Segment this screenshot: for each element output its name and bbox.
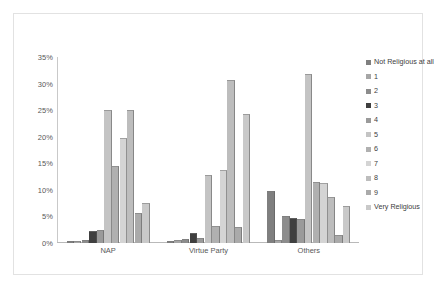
bar	[275, 240, 282, 243]
legend-item[interactable]: 8	[366, 174, 438, 183]
y-axis-tick-label: 15%	[38, 159, 53, 168]
bar	[112, 166, 119, 243]
legend-item[interactable]: 5	[366, 131, 438, 140]
y-axis-tick-label: 20%	[38, 132, 53, 141]
bar	[182, 239, 189, 243]
y-axis-tick-label: 0%	[42, 239, 53, 248]
legend-swatch-icon	[366, 176, 371, 181]
bar	[313, 182, 320, 243]
y-axis-tick-label: 30%	[38, 79, 53, 88]
bar-group	[158, 57, 258, 243]
bar	[104, 110, 111, 243]
bar	[305, 74, 312, 243]
bar-group	[259, 57, 359, 243]
legend-label: 8	[374, 174, 378, 183]
bar	[142, 203, 149, 243]
x-axis-category-label: Others	[259, 246, 359, 255]
legend-label: 7	[374, 160, 378, 169]
bar	[297, 219, 304, 243]
legend-label: Very Religious	[374, 203, 420, 212]
legend-item[interactable]: 9	[366, 189, 438, 198]
legend-item[interactable]: 1	[366, 73, 438, 82]
y-axis-tick-label: 10%	[38, 185, 53, 194]
bar	[320, 183, 327, 243]
legend-label: 3	[374, 102, 378, 111]
bar	[205, 175, 212, 243]
legend-item[interactable]: 2	[366, 87, 438, 96]
bar	[97, 230, 104, 243]
legend-label: Not Religious at all	[374, 58, 434, 67]
legend-item[interactable]: 6	[366, 145, 438, 154]
bar	[328, 197, 335, 243]
bar	[74, 241, 81, 243]
bar	[89, 231, 96, 243]
bar	[127, 110, 134, 243]
legend-swatch-icon	[366, 74, 371, 79]
legend-swatch-icon	[366, 118, 371, 123]
legend-swatch-icon	[366, 60, 371, 65]
x-axis-category-label: NAP	[58, 246, 158, 255]
legend-swatch-icon	[366, 103, 371, 108]
legend-item[interactable]: Very Religious	[366, 203, 438, 212]
bar	[174, 240, 181, 243]
legend-swatch-icon	[366, 161, 371, 166]
bar	[243, 114, 250, 243]
bar	[212, 226, 219, 243]
bar	[343, 206, 350, 243]
legend-label: 4	[374, 116, 378, 125]
plot-area	[58, 57, 359, 243]
legend-item[interactable]: 4	[366, 116, 438, 125]
chart-legend: Not Religious at all123456789Very Religi…	[366, 58, 438, 218]
legend-item[interactable]: 3	[366, 102, 438, 111]
bar	[282, 216, 289, 243]
bar	[82, 240, 89, 243]
bar	[135, 213, 142, 243]
bar	[290, 218, 297, 243]
chart-container: 35%30%25%20%15%10%5%0% NAPVirtue PartyOt…	[13, 13, 423, 275]
bar	[167, 241, 174, 243]
y-axis-tick-label: 35%	[38, 53, 53, 62]
legend-label: 1	[374, 73, 378, 82]
y-axis-tick-label: 25%	[38, 106, 53, 115]
legend-label: 5	[374, 131, 378, 140]
bar	[220, 170, 227, 243]
y-axis-labels: 35%30%25%20%15%10%5%0%	[14, 57, 53, 243]
bar	[197, 238, 204, 243]
x-axis-category-label: Virtue Party	[158, 246, 258, 255]
bar	[267, 191, 274, 243]
legend-swatch-icon	[366, 190, 371, 195]
legend-label: 2	[374, 87, 378, 96]
bar-group	[58, 57, 158, 243]
legend-label: 9	[374, 189, 378, 198]
bar	[190, 233, 197, 243]
bar	[227, 80, 234, 243]
legend-swatch-icon	[366, 205, 371, 210]
legend-item[interactable]: 7	[366, 160, 438, 169]
legend-swatch-icon	[366, 132, 371, 137]
legend-swatch-icon	[366, 89, 371, 94]
legend-swatch-icon	[366, 147, 371, 152]
bar	[67, 241, 74, 243]
legend-label: 6	[374, 145, 378, 154]
bar	[120, 138, 127, 243]
bar	[235, 227, 242, 243]
legend-item[interactable]: Not Religious at all	[366, 58, 438, 67]
y-axis-tick-label: 5%	[42, 212, 53, 221]
bar	[335, 235, 342, 244]
